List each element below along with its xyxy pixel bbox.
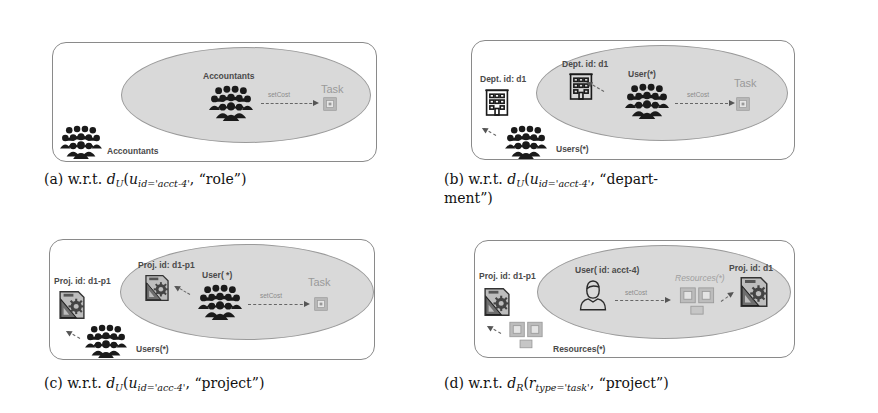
outer-project-label: Proj. id: d1-p1 [54, 276, 111, 286]
people-group-icon [84, 324, 128, 358]
project-blueprint-icon [739, 275, 769, 309]
dept-arrow [484, 128, 497, 136]
caption-arg: u [129, 375, 138, 391]
resources-icon [509, 321, 543, 349]
panel-c: Proj. id: d1-p1 User( *) setCost Task Pr… [49, 239, 375, 360]
panel-b: Dept. id: d1 User(*) setCost Task Dept. … [471, 40, 795, 160]
user-icon [579, 279, 607, 311]
caption-prefix: (a) w.r.t. [44, 171, 107, 187]
task-label: Task [734, 77, 757, 89]
caption-func: d [507, 375, 516, 391]
project-arrow [68, 331, 81, 339]
caption-prefix: (b) w.r.t. [444, 171, 507, 187]
setcost-arrow [261, 103, 317, 104]
resources-icon [679, 287, 715, 315]
outer-resources-label: Resources(*) [553, 344, 605, 354]
outer-project-label: Proj. id: d1-p1 [479, 271, 536, 281]
caption-arg-sub: id='acc-4' [138, 382, 186, 393]
inner-project-label: Proj. id: d1-p1 [138, 260, 195, 270]
caption-arg: u [530, 171, 539, 187]
project-blueprint-icon [58, 288, 86, 322]
edge-label: setCost [260, 292, 282, 299]
setcost-arrow [248, 304, 308, 305]
caption-suffix: , “project”) [185, 375, 264, 391]
people-group-icon [625, 83, 669, 119]
people-group-icon [59, 125, 103, 159]
caption-d: (d) w.r.t. dR(rtype='task', “project”) [444, 375, 669, 393]
people-group-icon [209, 85, 253, 121]
caption-arg: u [129, 171, 138, 187]
caption-func: d [106, 375, 115, 391]
edge-label: setCost [268, 91, 290, 98]
inner-project-label: Proj. id: d1 [729, 263, 773, 273]
panel-a: Accountants setCost Task Accountants [52, 42, 377, 162]
caption-func-sub: U [516, 178, 524, 189]
caption-suffix: , “depart- [590, 171, 658, 187]
caption-prefix: (d) w.r.t. [444, 375, 507, 391]
task-box-icon [736, 97, 750, 111]
caption-c: (c) w.r.t. dU(uid='acc-4', “project”) [44, 375, 264, 393]
caption-arg-sub: id='acct-4' [539, 178, 591, 189]
project-arrow [489, 326, 502, 334]
task-label: Task [308, 276, 331, 288]
outer-dept-label: Dept. id: d1 [480, 74, 526, 84]
caption-a: (a) w.r.t. dU(uid='acct-4', “role”) [44, 171, 246, 189]
outer-group-label: Users(*) [556, 144, 589, 154]
building-icon [484, 87, 510, 117]
inner-group-label: User(*) [628, 69, 656, 79]
outer-group-label: Accountants [107, 146, 158, 156]
task-box-icon [323, 97, 337, 111]
panel-d: User( id: acct-4) setCost Resources(*) P… [474, 240, 795, 358]
inner-resources-label: Resources(*) [675, 273, 725, 283]
caption-func-sub: U [116, 178, 124, 189]
task-label: Task [321, 83, 344, 95]
people-group-icon [504, 125, 548, 159]
edge-label: setCost [625, 289, 647, 296]
inner-group-label: User( *) [202, 270, 232, 280]
caption-arg-sub: id='acct-4' [138, 178, 190, 189]
inner-user-label: User( id: acct-4) [575, 265, 639, 275]
caption-suffix: , “project”) [590, 375, 669, 391]
edge-label: setCost [687, 91, 709, 98]
caption-prefix: (c) w.r.t. [44, 375, 106, 391]
people-group-icon [198, 284, 242, 320]
caption-func-sub: U [115, 382, 123, 393]
inner-dept-label: Dept. id: d1 [562, 59, 608, 69]
caption-suffix: , “role”) [190, 171, 247, 187]
inner-group-label: Accountants [203, 71, 254, 81]
project-blueprint-icon [483, 285, 511, 319]
caption-func: d [507, 171, 516, 187]
task-box-icon [314, 297, 328, 311]
caption-b-line2: ment”) [444, 190, 493, 206]
caption-line2: ment”) [444, 190, 493, 206]
project-blueprint-icon [144, 273, 170, 303]
setcost-arrow [615, 300, 669, 301]
caption-func: d [107, 171, 116, 187]
setcost-arrow [675, 103, 733, 104]
caption-func-sub: R [516, 382, 523, 393]
caption-arg-sub: type='task' [536, 382, 590, 393]
caption-arg: r [529, 375, 536, 391]
caption-b: (b) w.r.t. dU(uid='acct-4', “depart- [444, 171, 658, 189]
outer-group-label: Users(*) [136, 344, 169, 354]
